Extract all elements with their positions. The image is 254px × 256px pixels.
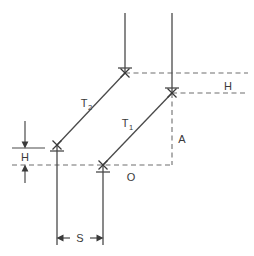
label-H-left: H xyxy=(21,151,29,163)
label-O: O xyxy=(127,171,136,183)
diagram-canvas: T 2 T 1 H H O A S xyxy=(0,0,254,256)
label-H-right: H xyxy=(224,80,232,92)
label-T1: T xyxy=(122,117,129,129)
label-T1-subscript: 1 xyxy=(129,123,133,132)
label-A: A xyxy=(178,133,186,145)
label-S: S xyxy=(76,232,83,244)
label-T2-subscript: 2 xyxy=(88,103,92,112)
label-T2: T xyxy=(81,97,88,109)
dimension-diagram: T 2 T 1 H H O A S xyxy=(0,0,254,256)
